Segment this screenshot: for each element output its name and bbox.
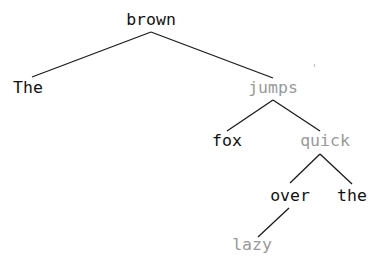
dependency-tree: brown The jumps fox quick over the lazy	[0, 0, 379, 268]
node-lazy: lazy	[232, 236, 272, 254]
node-the: the	[337, 187, 367, 205]
edge-over-lazy	[258, 208, 289, 237]
edge-jumps-quick	[273, 100, 320, 131]
edge-quick-over	[290, 154, 320, 183]
node-quick: quick	[300, 132, 350, 150]
edge-jumps-fox	[227, 100, 273, 131]
node-fox: fox	[212, 132, 242, 150]
node-jumps: jumps	[248, 79, 298, 97]
artifact-speck	[314, 64, 315, 67]
node-brown: brown	[126, 11, 176, 29]
edge-brown-the	[32, 32, 151, 77]
edge-quick-the	[320, 154, 352, 184]
edge-brown-jumps	[151, 32, 273, 78]
node-the-capitalized: The	[13, 79, 43, 97]
node-over: over	[270, 187, 310, 205]
